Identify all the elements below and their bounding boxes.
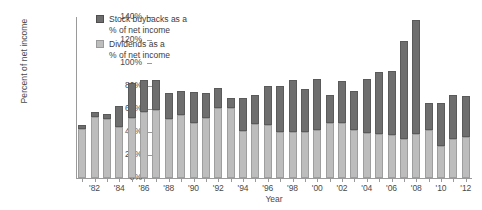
x-axis-tick-mark (293, 178, 294, 182)
bar-segment-buybacks (239, 98, 247, 131)
bar-1996 (264, 86, 272, 178)
bar-segment-buybacks (227, 98, 235, 108)
bar-segment-dividends (449, 139, 457, 178)
bar-segment-buybacks (313, 79, 321, 130)
x-axis-tick-mark (392, 178, 393, 182)
x-axis-tick-label: '82 (83, 183, 107, 193)
bar-segment-buybacks (375, 72, 383, 134)
bar-1993 (227, 98, 235, 179)
bar-segment-buybacks (264, 86, 272, 125)
bar-2006 (388, 71, 396, 178)
bar-segment-buybacks (338, 81, 346, 122)
bar-segment-dividends (313, 130, 321, 178)
bar-segment-dividends (264, 125, 272, 178)
bar-segment-dividends (425, 130, 433, 178)
bar-1982 (91, 112, 99, 178)
bar-segment-dividends (190, 123, 198, 178)
x-axis-tick-label: '00 (305, 183, 329, 193)
x-axis-tick-mark (255, 178, 256, 182)
y-axis-title: Percent of net income (19, 0, 29, 131)
bar-1997 (276, 86, 284, 178)
bar-segment-buybacks (78, 125, 86, 128)
bar-segment-buybacks (251, 95, 259, 124)
x-axis-tick-label: '92 (206, 183, 230, 193)
x-axis-tick-mark (429, 178, 430, 182)
x-axis-tick-mark (206, 178, 207, 182)
bar-segment-buybacks (350, 91, 358, 130)
bar-segment-dividends (78, 129, 86, 178)
bar-segment-dividends (412, 134, 420, 178)
x-axis-tick-mark (144, 178, 145, 182)
x-axis-tick-mark (330, 178, 331, 182)
bar-segment-dividends (338, 123, 346, 178)
bar-segment-dividends (276, 132, 284, 178)
bar-segment-buybacks (103, 114, 111, 120)
bar-2009 (425, 103, 433, 178)
bar-segment-dividends (103, 119, 111, 178)
x-axis-tick-mark (169, 178, 170, 182)
x-axis-tick-label: '96 (256, 183, 280, 193)
bar-1985 (128, 83, 136, 178)
bar-segment-buybacks (276, 86, 284, 132)
legend-label-buybacks-line1: Stock buybacks as a (109, 14, 187, 24)
bar-2008 (412, 20, 420, 178)
bar-1999 (301, 89, 309, 178)
bar-segment-buybacks (400, 41, 408, 139)
x-axis-tick-mark (379, 178, 380, 182)
legend-swatch-buybacks-icon (96, 15, 104, 23)
bar-segment-dividends (152, 110, 160, 178)
x-axis-tick-mark (441, 178, 442, 182)
x-axis-tick-label: '04 (355, 183, 379, 193)
x-axis-tick-mark (367, 178, 368, 182)
x-axis-tick-mark (342, 178, 343, 182)
bar-segment-buybacks (140, 80, 148, 112)
bar-2004 (363, 79, 371, 178)
bar-segment-buybacks (152, 80, 160, 110)
bar-1988 (165, 93, 173, 178)
x-axis-tick-mark (268, 178, 269, 182)
bar-1983 (103, 114, 111, 178)
bar-2000 (313, 79, 321, 178)
bar-segment-dividends (115, 127, 123, 178)
x-axis-tick-mark (466, 178, 467, 182)
bar-segment-buybacks (437, 103, 445, 146)
bar-1984 (115, 106, 123, 178)
x-axis-tick-mark (453, 178, 454, 182)
bar-1986 (140, 80, 148, 178)
bar-2011 (449, 95, 457, 178)
bar-segment-dividends (227, 108, 235, 178)
x-axis-tick-label: '98 (281, 183, 305, 193)
x-axis-tick-label: '86 (132, 183, 156, 193)
bar-1995 (251, 95, 259, 178)
x-axis-tick-label: '06 (380, 183, 404, 193)
bar-segment-dividends (91, 117, 99, 178)
x-axis-tick-mark (231, 178, 232, 182)
bar-segment-dividends (202, 118, 210, 178)
x-axis-tick-mark (243, 178, 244, 182)
bar-segment-dividends (462, 137, 470, 178)
bar-segment-dividends (350, 130, 358, 178)
legend-item-dividends: Dividends as a % of net income (96, 39, 187, 60)
legend-item-buybacks: Stock buybacks as a % of net income (96, 14, 187, 35)
x-axis-tick-label: '84 (107, 183, 131, 193)
bar-1991 (202, 93, 210, 178)
x-axis-tick-mark (218, 178, 219, 182)
bar-segment-buybacks (165, 93, 173, 119)
legend-label-dividends-line2: % of net income (109, 50, 187, 61)
x-axis-tick-label: '02 (330, 183, 354, 193)
bar-segment-dividends (165, 119, 173, 178)
bar-segment-buybacks (412, 20, 420, 134)
x-axis-tick-mark (317, 178, 318, 182)
bar-segment-dividends (375, 134, 383, 178)
x-axis-tick-mark (194, 178, 195, 182)
x-axis-tick-mark (280, 178, 281, 182)
x-axis-tick-label: '08 (404, 183, 428, 193)
x-axis-tick-label: '94 (231, 183, 255, 193)
bar-2003 (350, 91, 358, 178)
x-axis-tick-label: '90 (182, 183, 206, 193)
bar-2012 (462, 96, 470, 178)
x-axis-tick-mark (119, 178, 120, 182)
x-axis-tick-mark (156, 178, 157, 182)
bar-segment-buybacks (91, 112, 99, 117)
x-axis-tick-mark (354, 178, 355, 182)
